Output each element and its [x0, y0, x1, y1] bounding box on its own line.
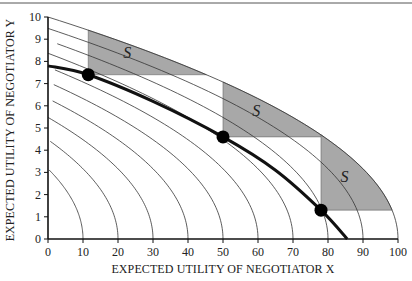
indifference-curve	[53, 101, 188, 239]
frontier-line	[48, 66, 347, 239]
frontier-curve	[48, 66, 347, 239]
y-tick-label: 1	[35, 210, 41, 224]
status-quo-point	[217, 130, 230, 143]
x-tick-label: 10	[77, 245, 89, 259]
shaded-region-2	[223, 82, 324, 137]
indifference-curve	[48, 53, 293, 239]
indifference-curve	[50, 141, 118, 239]
x-tick-label: 40	[182, 245, 194, 259]
status-quo-point	[315, 204, 328, 217]
shaded-regions: SSS	[88, 30, 392, 210]
x-tick-label: 100	[389, 245, 407, 259]
indifference-curve	[49, 170, 83, 239]
y-tick-label: 6	[35, 99, 41, 113]
indifference-curve	[48, 117, 153, 239]
y-tick-label: 0	[35, 232, 41, 246]
chart: SSS 0102030405060708090100012345678910 E…	[0, 0, 412, 281]
y-tick-label: 9	[35, 32, 41, 46]
x-axis-title: EXPECTED UTILITY OF NEGOTIATOR X	[111, 262, 334, 276]
y-axis-title: EXPECTED UTILITY OF NEGOTIATOR Y	[3, 18, 17, 241]
x-tick-label: 50	[217, 245, 229, 259]
status-quo-point	[82, 68, 95, 81]
y-tick-label: 5	[35, 121, 41, 135]
y-tick-label: 2	[35, 188, 41, 202]
y-tick-label: 3	[35, 165, 41, 179]
x-tick-label: 0	[45, 245, 51, 259]
x-tick-label: 20	[112, 245, 124, 259]
status-quo-points	[82, 68, 328, 216]
x-tick-label: 60	[252, 245, 264, 259]
x-tick-label: 30	[147, 245, 159, 259]
x-tick-label: 70	[287, 245, 299, 259]
y-tick-label: 7	[35, 77, 41, 91]
x-tick-label: 80	[322, 245, 334, 259]
y-tick-label: 4	[35, 143, 41, 157]
region-label: S	[340, 168, 348, 185]
y-tick-label: 8	[35, 54, 41, 68]
shaded-region-1	[88, 30, 206, 75]
x-tick-label: 90	[357, 245, 369, 259]
y-tick-label: 10	[29, 10, 41, 24]
